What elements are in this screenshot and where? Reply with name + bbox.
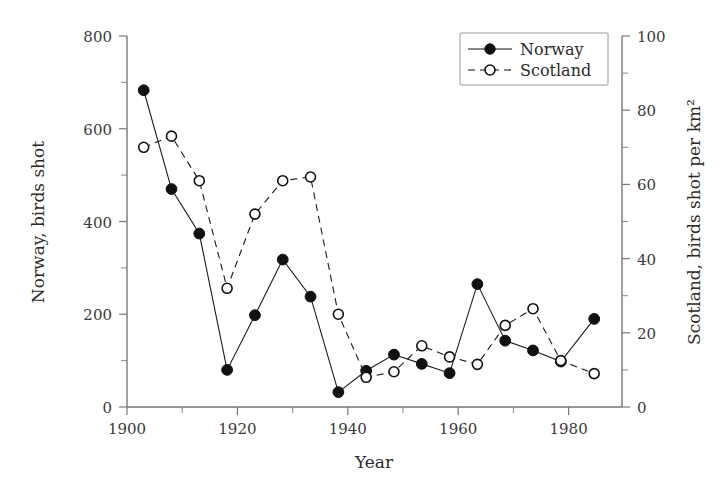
left-axis-ticks: [119, 36, 127, 407]
series-norway: [138, 85, 599, 398]
data-point[interactable]: [194, 228, 205, 239]
data-point[interactable]: [589, 313, 600, 324]
data-point[interactable]: [500, 335, 511, 346]
left-tick-label: 200: [83, 306, 112, 324]
y-axis-title: Norway, birds shot: [28, 141, 48, 303]
data-point[interactable]: [306, 172, 316, 182]
chart-legend[interactable]: Norway Scotland: [460, 33, 608, 85]
y2-axis-title: Scotland, birds shot per km²: [684, 99, 704, 345]
right-tick-label: 0: [637, 399, 647, 417]
data-point[interactable]: [500, 320, 510, 330]
series-line-scotland: [144, 136, 595, 377]
data-point[interactable]: [389, 349, 400, 360]
left-tick-label: 800: [83, 28, 112, 46]
data-point[interactable]: [528, 304, 538, 314]
data-point[interactable]: [333, 387, 344, 398]
legend-marker-filled-circle-icon: [485, 44, 495, 54]
x-tick-label: 1960: [439, 420, 477, 438]
data-point[interactable]: [445, 352, 455, 362]
data-point[interactable]: [250, 310, 261, 321]
data-point[interactable]: [361, 372, 371, 382]
data-point[interactable]: [333, 309, 343, 319]
data-point[interactable]: [250, 209, 260, 219]
right-axis-tick-labels: 100 80 60 40 20 0: [637, 28, 666, 417]
data-point[interactable]: [166, 184, 177, 195]
left-axis-tick-labels: 800 600 400 200 0: [83, 28, 112, 417]
data-point[interactable]: [194, 176, 204, 186]
x-tick-label: 1920: [218, 420, 256, 438]
x-tick-label: 1900: [108, 420, 146, 438]
data-point[interactable]: [416, 358, 427, 369]
data-point[interactable]: [166, 131, 176, 141]
data-point[interactable]: [417, 341, 427, 351]
legend-marker-open-circle-icon: [485, 65, 495, 75]
data-point[interactable]: [222, 365, 233, 376]
legend-label-norway: Norway: [520, 40, 584, 59]
data-series-layer: [138, 85, 599, 398]
right-axis-ticks: [622, 36, 630, 407]
right-tick-label: 100: [637, 28, 666, 46]
data-point[interactable]: [139, 142, 149, 152]
left-tick-label: 600: [83, 121, 112, 139]
data-point[interactable]: [222, 283, 232, 293]
data-point[interactable]: [277, 254, 288, 265]
data-point[interactable]: [389, 367, 399, 377]
series-line-norway: [144, 90, 595, 392]
data-point[interactable]: [138, 85, 149, 96]
x-axis-title: Year: [354, 452, 394, 472]
x-tick-label: 1940: [329, 420, 367, 438]
series-scotland: [139, 131, 600, 382]
data-point[interactable]: [472, 359, 482, 369]
chart-figure: 800 600 400 200 0 100 80 60 40 20: [0, 0, 726, 501]
data-point[interactable]: [305, 291, 316, 302]
legend-label-scotland: Scotland: [520, 61, 591, 80]
right-tick-label: 80: [637, 102, 656, 120]
bird-harvest-line-chart: 800 600 400 200 0 100 80 60 40 20: [0, 0, 726, 501]
x-tick-label: 1980: [550, 420, 588, 438]
right-tick-label: 60: [637, 176, 656, 194]
x-axis-tick-labels: 1900 1920 1940 1960 1980: [108, 420, 588, 438]
data-point[interactable]: [589, 369, 599, 379]
right-tick-label: 40: [637, 251, 656, 269]
right-tick-label: 20: [637, 325, 656, 343]
data-point[interactable]: [278, 176, 288, 186]
left-tick-label: 400: [83, 214, 112, 232]
data-point[interactable]: [472, 279, 483, 290]
left-tick-label: 0: [102, 399, 112, 417]
data-point[interactable]: [444, 368, 455, 379]
data-point[interactable]: [528, 345, 539, 356]
data-point[interactable]: [556, 356, 566, 366]
x-axis-ticks: [127, 407, 569, 415]
axis-lines: [127, 36, 622, 407]
